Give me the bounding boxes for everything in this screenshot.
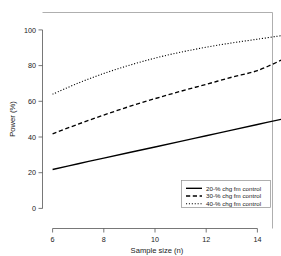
- y-tick-label: 0: [32, 204, 36, 213]
- legend-label: 30-% chg fm control: [206, 192, 261, 199]
- x-tick-label: 10: [151, 235, 159, 244]
- x-tick-label: 12: [202, 235, 210, 244]
- y-tick-label: 20: [28, 168, 36, 177]
- y-tick-label: 100: [24, 26, 36, 35]
- x-axis-title: Sample size (n): [131, 246, 184, 255]
- power-curve-chart: 100 80 60 40 20 0 Power (%) 6 8 10: [0, 0, 281, 256]
- y-tick-label: 40: [28, 133, 36, 142]
- chart-legend[interactable]: 20-% chg fm control 30-% chg fm control …: [182, 181, 271, 208]
- y-axis-title: Power (%): [8, 101, 17, 137]
- x-tick-label: 14: [253, 235, 261, 244]
- x-tick-label: 8: [102, 235, 106, 244]
- legend-label: 40-% chg fm control: [206, 200, 261, 207]
- y-tick-label: 80: [28, 61, 36, 70]
- legend-label: 20-% chg fm control: [206, 185, 261, 192]
- y-tick-label: 60: [28, 97, 36, 106]
- x-tick-label: 6: [51, 235, 55, 244]
- chart-canvas: 100 80 60 40 20 0 Power (%) 6 8 10: [0, 0, 281, 256]
